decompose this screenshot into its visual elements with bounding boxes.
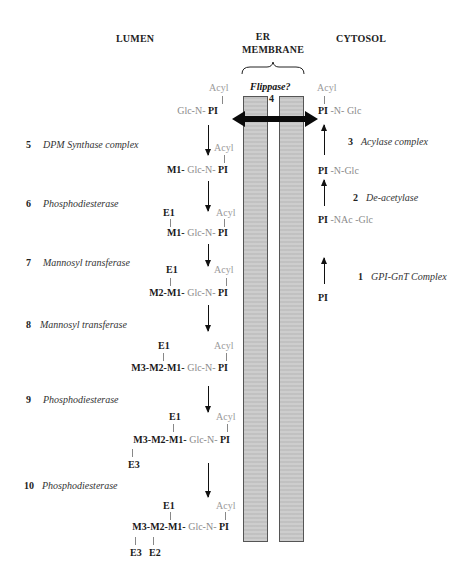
acyl-label: Acyl [214, 142, 233, 153]
bond-line [135, 537, 136, 545]
acyl-label: Acyl [216, 411, 235, 422]
bond-line [153, 537, 154, 545]
lumen-step-7: 7 Mannosyl transferase [26, 252, 130, 270]
bond-line [324, 96, 325, 104]
arrow-down-icon [208, 386, 209, 412]
molecule-m1: M1- Glc-N- PI [167, 164, 228, 175]
header-cytosol: CYTOSOL [336, 33, 386, 44]
molecule-m5: M3-M2-M1- Glc-N- PI [133, 434, 230, 445]
bond-line [226, 353, 227, 361]
molecule-m4: M3-M2-M1- Glc-N- PI [131, 362, 228, 373]
lumen-step-10: 10 Phosphodiesterase [24, 475, 118, 493]
arrow-down-icon [208, 181, 209, 211]
bond-line [226, 278, 227, 286]
bond-line [170, 219, 171, 227]
arrow-up-icon [324, 258, 325, 284]
bond-line [224, 219, 225, 227]
e2-label: E2 [149, 547, 161, 558]
lumen-step-6: 6 Phosphodiesterase [26, 193, 119, 211]
bond-line [170, 512, 171, 520]
e1-label: E1 [166, 264, 178, 275]
bond-line [132, 449, 133, 457]
molecule-m2: M1- Glc-N- PI [167, 227, 228, 238]
molecule-m6: M3-M2-M1- Glc-N- PI [132, 521, 229, 532]
arrow-down-icon [208, 305, 209, 331]
lumen-step-9: 9 Phosphodiesterase [26, 389, 119, 407]
e3-label: E3 [130, 547, 142, 558]
arrow-down-icon [208, 244, 209, 266]
arrow-down-icon [208, 463, 209, 497]
acyl-label: Acyl [216, 500, 235, 511]
cytosol-step-3: 3 Acylase complex [348, 131, 428, 149]
bond-line [224, 155, 225, 163]
molecule-pi-nglc: PI -N-Glc [318, 165, 359, 176]
acyl-label: Acyl [317, 82, 336, 93]
arrow-up-icon [324, 180, 325, 206]
header-er-membrane: MEMBRANE [242, 44, 304, 55]
flippase-label: Flippase? [250, 81, 291, 92]
membrane-leaflet-left [243, 96, 268, 542]
molecule-acyl-pi-nglc: PI -N- Glc [318, 105, 361, 116]
bond-line [227, 424, 228, 432]
membrane-brace-icon [240, 60, 306, 76]
e1-label: E1 [158, 340, 170, 351]
e3-label: E3 [128, 459, 140, 470]
bond-line [222, 96, 223, 104]
bond-line [170, 278, 171, 286]
molecule-pi: PI [318, 292, 328, 303]
bond-line [173, 424, 174, 432]
lumen-step-8: 8 Mannosyl transferase [26, 314, 127, 332]
e1-label: E1 [169, 411, 181, 422]
arrow-down-icon [208, 125, 209, 155]
flippase-step-number: 4 [269, 93, 274, 104]
acyl-label: Acyl [214, 264, 233, 275]
bond-line [163, 353, 164, 361]
flippase-double-arrow-icon [231, 110, 319, 128]
cytosol-step-2: 2 De-acetylase [353, 187, 418, 205]
acyl-label: Acyl [209, 82, 228, 93]
molecule-m0: Glc-N- PI [177, 105, 218, 116]
membrane-leaflet-right [279, 96, 304, 542]
cytosol-step-1: 1 GPI-GnT Complex [358, 266, 447, 284]
molecule-m3: M2-M1- Glc-N- PI [149, 287, 228, 298]
header-lumen: LUMEN [116, 33, 154, 44]
acyl-label: Acyl [216, 207, 235, 218]
acyl-label: Acyl [214, 340, 233, 351]
e1-label: E1 [163, 500, 175, 511]
molecule-pi-nacglc: PI -NAc -Glc [318, 214, 373, 225]
e1-label: E1 [163, 207, 175, 218]
arrow-up-icon [324, 125, 325, 155]
bond-line [225, 512, 226, 520]
header-er: ER [256, 31, 270, 42]
lumen-step-5: 5 DPM Synthase complex [26, 134, 139, 152]
